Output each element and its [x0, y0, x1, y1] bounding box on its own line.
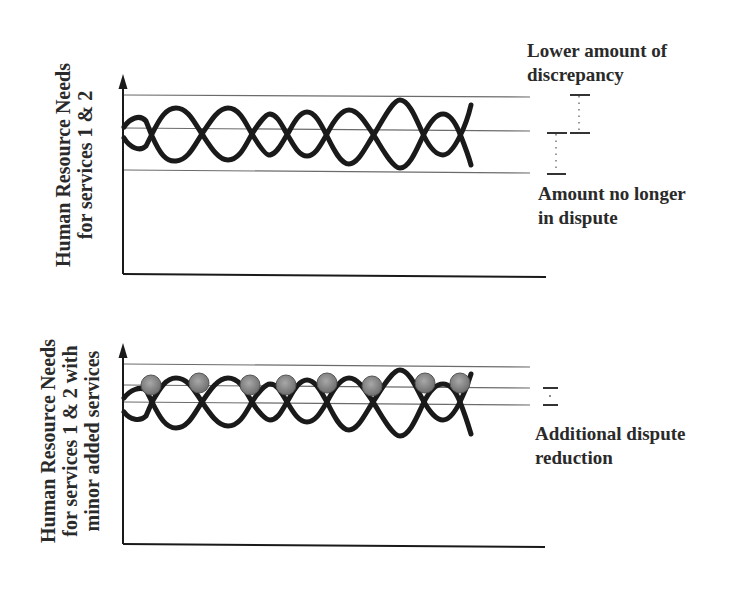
- bottom-chart: [119, 343, 559, 547]
- top-guide-upper: [124, 95, 530, 97]
- top-x-axis: [123, 274, 546, 277]
- annotation-lower-discrepancy: Lower amount of discrepancy: [527, 39, 667, 87]
- bottom-bracket-additional-reduction: [543, 388, 558, 405]
- top-y-axis-label-line1: Human Resource Needs: [52, 47, 74, 283]
- marker-ball-icon: [240, 375, 260, 395]
- marker-ball-icon: [415, 373, 435, 393]
- top-y-axis-label: Human Resource Needs for services 1 & 2: [52, 47, 96, 283]
- annotation-no-longer-in-dispute: Amount no longer in dispute: [538, 182, 686, 230]
- top-bracket-discrepancy: [570, 95, 590, 133]
- diagram-canvas: [0, 0, 749, 596]
- top-bracket-no-longer-disputed: [547, 133, 567, 174]
- annotation-no-longer-in-dispute-line2: in dispute: [538, 206, 686, 230]
- marker-ball-icon: [450, 373, 470, 393]
- top-y-axis-arrow-icon: [119, 74, 128, 89]
- annotation-additional-dispute-reduction-line2: reduction: [535, 446, 685, 470]
- marker-ball-icon: [189, 373, 209, 393]
- annotation-lower-discrepancy-line2: discrepancy: [527, 63, 667, 87]
- bottom-y-axis-label-line2: for services 1 & 2 with: [59, 316, 81, 566]
- bottom-y-axis-arrow-icon: [119, 343, 128, 358]
- annotation-additional-dispute-reduction: Additional dispute reduction: [535, 422, 685, 470]
- top-y-axis-label-line2: for services 1 & 2: [74, 47, 96, 283]
- bottom-x-axis: [123, 544, 545, 547]
- annotation-no-longer-in-dispute-line1: Amount no longer: [538, 182, 686, 206]
- bottom-guide-upper: [124, 364, 530, 367]
- marker-ball-icon: [141, 375, 161, 395]
- marker-ball-icon: [317, 373, 337, 393]
- top-guide-lower: [124, 170, 530, 173]
- top-chart: [119, 74, 591, 277]
- marker-ball-icon: [276, 375, 296, 395]
- annotation-additional-dispute-reduction-line1: Additional dispute: [535, 422, 685, 446]
- bottom-y-axis-label-line3: minor added services: [81, 316, 103, 566]
- bottom-y-axis-label-line1: Human Resource Needs: [37, 316, 59, 566]
- bottom-y-axis-label: Human Resource Needs for services 1 & 2 …: [37, 316, 103, 566]
- marker-ball-icon: [362, 376, 382, 396]
- added-service-markers: [141, 373, 470, 396]
- annotation-lower-discrepancy-line1: Lower amount of: [527, 39, 667, 63]
